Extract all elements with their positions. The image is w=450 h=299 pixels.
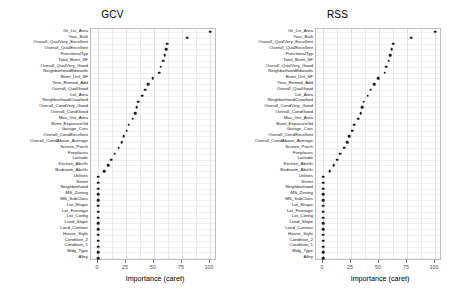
- data-point: [97, 210, 100, 213]
- y-axis-tick-label: FunctionalTyp: [286, 52, 313, 56]
- data-point: [162, 60, 165, 63]
- plot-shell: Gr_Liv_AreaYear_BuiltOverall_QualVery_Ex…: [6, 28, 220, 260]
- data-point: [322, 205, 325, 208]
- y-axis-tick-label: FunctionalTyp: [61, 52, 88, 56]
- x-axis-tick-mark: [322, 260, 323, 263]
- x-axis-tick-label: 75: [403, 264, 409, 270]
- data-point: [322, 216, 325, 219]
- y-axis-tick-label: Lot_Frontage: [287, 209, 313, 213]
- x-axis-tick-label: 100: [205, 264, 214, 270]
- data-point: [97, 205, 100, 208]
- y-axis-tick-label: Year_Remod_Add: [52, 81, 88, 85]
- data-point: [97, 176, 100, 179]
- gridline-vertical-minor: [365, 29, 366, 259]
- data-point: [97, 228, 100, 231]
- x-axis-tick-mark: [153, 260, 154, 263]
- data-point: [137, 100, 140, 103]
- y-axis-tick-label: Bsmt_ExposureGd: [51, 122, 88, 126]
- data-point: [159, 65, 162, 68]
- y-axis-tick-label: Year_Built: [68, 35, 88, 39]
- data-point: [152, 77, 155, 80]
- data-point: [392, 42, 395, 45]
- y-axis-tick-label: Overall_QualVery_Excellent: [258, 40, 313, 44]
- data-point: [410, 36, 413, 39]
- y-axis-tick-label: Land_Contour: [60, 226, 88, 230]
- y-axis-tick-label: Lot_Area: [70, 93, 88, 97]
- data-point: [97, 222, 100, 225]
- data-point: [97, 257, 100, 260]
- y-axis-tick-label: Overall_QualExcellent: [45, 46, 88, 50]
- y-axis-tick-label: House_Style: [63, 232, 88, 236]
- y-axis-labels: Gr_Liv_AreaYear_BuiltOverall_QualVery_Ex…: [231, 28, 315, 260]
- data-point: [103, 170, 106, 173]
- y-axis-tick-label: NeighborhoodEdwards: [43, 69, 88, 73]
- facet-gcv: GCVGr_Liv_AreaYear_BuiltOverall_QualVery…: [0, 0, 225, 299]
- data-point: [97, 193, 100, 196]
- y-axis-tick-label: Overall_CondGood: [50, 110, 88, 114]
- data-point: [343, 147, 346, 150]
- data-point: [158, 71, 161, 74]
- data-point: [144, 89, 147, 92]
- x-axis-tick-mark: [181, 260, 182, 263]
- data-point: [322, 210, 325, 213]
- data-point: [107, 164, 110, 167]
- data-point: [131, 118, 134, 121]
- data-point: [322, 222, 325, 225]
- data-point: [336, 158, 339, 161]
- gridline-vertical: [182, 29, 183, 259]
- data-point: [120, 141, 123, 144]
- facet-title: RSS: [225, 9, 450, 21]
- y-axis-tick-label: Mas_Vnr_Area: [284, 116, 313, 120]
- data-point: [97, 251, 100, 254]
- y-axis-tick-label: Bedroom_AbvGr: [280, 168, 313, 172]
- gridline-vertical-minor: [168, 29, 169, 259]
- data-point: [97, 234, 100, 237]
- y-axis-tick-label: Gr_Liv_Area: [63, 29, 88, 33]
- gridline-vertical-minor: [112, 29, 113, 259]
- plot-panel: [315, 28, 441, 260]
- data-point: [373, 83, 376, 86]
- x-axis-tick-label: 100: [430, 264, 439, 270]
- x-axis-tick-mark: [209, 260, 210, 263]
- gridline-vertical: [210, 29, 211, 259]
- data-point: [322, 199, 325, 202]
- gridline-vertical-minor: [421, 29, 422, 259]
- data-point: [363, 100, 366, 103]
- y-axis-tick-label: MS_Zoning: [291, 191, 313, 195]
- data-point: [209, 31, 212, 34]
- data-point: [348, 135, 351, 138]
- data-point: [322, 176, 325, 179]
- variable-importance-figure: GCVGr_Liv_AreaYear_BuiltOverall_QualVery…: [0, 0, 450, 299]
- y-axis-tick-label: Overall_QualVery_Good: [40, 64, 88, 68]
- gridline-vertical: [126, 29, 127, 259]
- y-axis-tick-label: Garage_Cars: [62, 127, 88, 131]
- y-axis-tick-label: NeighborhoodCrawford: [43, 98, 88, 102]
- data-point: [322, 234, 325, 237]
- data-point: [97, 216, 100, 219]
- y-axis-tick-label: MS_Zoning: [66, 191, 88, 195]
- data-point: [147, 83, 150, 86]
- y-axis-tick-label: Condition_2: [65, 238, 88, 242]
- data-point: [110, 158, 113, 161]
- data-point: [383, 71, 386, 74]
- y-axis-tick-label: Lot_Frontage: [62, 209, 88, 213]
- gridline-vertical-minor: [393, 29, 394, 259]
- y-axis-tick-label: NeighborhoodCrawford: [268, 98, 313, 102]
- y-axis-tick-label: Utilities: [74, 174, 88, 178]
- x-axis-tick-mark: [406, 260, 407, 263]
- data-point: [117, 147, 120, 150]
- data-point: [332, 164, 335, 167]
- x-axis-tick-label: 0: [96, 264, 99, 270]
- data-point: [391, 48, 394, 51]
- data-point: [322, 251, 325, 254]
- y-axis-tick-label: Overall_CondExcellent: [43, 133, 88, 137]
- data-point: [97, 239, 100, 242]
- x-axis-tick-label: 75: [178, 264, 184, 270]
- data-point: [385, 65, 388, 68]
- y-axis-tick-label: Condition_2: [290, 238, 313, 242]
- y-axis-tick-label: Utilities: [299, 174, 313, 178]
- y-axis-tick-label: Latitude: [297, 156, 313, 160]
- data-point: [125, 129, 128, 132]
- y-axis-tick-label: Total_Bsmt_SF: [283, 58, 313, 62]
- y-axis-tick-label: Latitude: [72, 156, 88, 160]
